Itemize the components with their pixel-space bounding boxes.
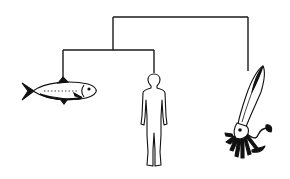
squid-icon bbox=[225, 66, 272, 158]
fish-icon bbox=[22, 77, 96, 104]
human-icon bbox=[141, 74, 167, 166]
tree-branches bbox=[63, 17, 248, 77]
cladogram-diagram: Fish Human Squid bbox=[0, 0, 290, 179]
